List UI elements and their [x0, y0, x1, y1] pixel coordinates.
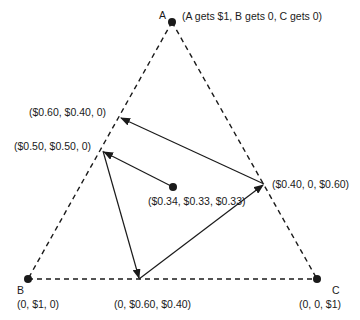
point-center-label: ($0.34, $0.33, $0.33): [148, 195, 246, 207]
arrow-ac-to-ab1: [121, 118, 264, 184]
vertex-b-payoff: (0, $1, 0): [17, 298, 59, 310]
point-ab1-label: ($0.60, $0.40, 0): [29, 106, 106, 118]
arrow-center-to-ab2: [104, 152, 173, 187]
vertex-c-dot: [313, 275, 321, 283]
vertex-c-label: C: [332, 284, 340, 296]
simplex-diagram: [0, 0, 360, 320]
vertex-a-label: A: [159, 9, 166, 21]
vertex-c-payoff: (0, 0, $1): [299, 298, 341, 310]
point-ac-label: ($0.40, 0, $0.60): [272, 178, 349, 190]
center-dot: [169, 183, 177, 191]
vertex-a-payoff: (A gets $1, B gets 0, C gets 0): [182, 10, 322, 22]
point-bc-label: (0, $0.60, $0.40): [114, 298, 191, 310]
vertex-b-label: B: [17, 284, 24, 296]
point-ab2-label: ($0.50, $0.50, 0): [14, 140, 91, 152]
vertex-b-dot: [24, 275, 32, 283]
vertex-a-dot: [168, 18, 176, 26]
arrow-ab2-to-bc: [103, 151, 139, 278]
edge-ac: [172, 22, 317, 279]
